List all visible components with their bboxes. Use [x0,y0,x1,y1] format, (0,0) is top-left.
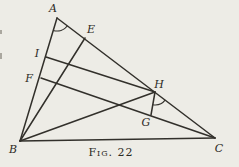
point-label-G: G [142,116,151,129]
scan-artifact-0 [0,30,2,34]
edge-BC [20,138,215,141]
point-label-E: E [86,23,95,36]
angle-mark-H [153,100,166,105]
point-label-F: F [24,72,33,85]
figure-caption: Fig. 22 [0,146,222,159]
figure-page: AEIFHGBC Fig. 22 [0,0,239,167]
point-label-I: I [34,47,40,60]
angle-mark-A [53,26,67,31]
edge-BH [20,92,155,141]
scan-artifact-1 [0,53,2,59]
edge-HG [151,92,155,115]
point-label-A: A [48,2,57,15]
geometry-diagram: AEIFHGBC [0,0,239,167]
point-label-H: H [153,78,164,91]
edge-FC [41,78,215,138]
edge-AC [57,18,215,138]
